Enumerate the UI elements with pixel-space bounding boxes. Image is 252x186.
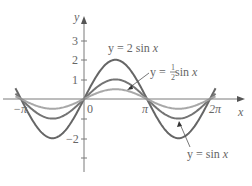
x-tick-label-2pi: 2π xyxy=(209,102,222,116)
y-axis-arrow-icon xyxy=(81,16,87,24)
svg-text:y =: y = xyxy=(150,65,166,79)
sine-amplitude-chart: y x 3 2 1 −2 0 −π π 2π y = 2 sin x y = 1… xyxy=(0,0,252,186)
y-tick-label-2: 2 xyxy=(72,53,78,67)
annotation-2sinx: y = 2 sin x xyxy=(108,41,159,55)
x-axis-arrow-icon xyxy=(237,96,245,102)
x-tick-label-pi: π xyxy=(142,102,149,116)
annotation-sinx-leader xyxy=(180,124,190,147)
y-tick-label-1: 1 xyxy=(72,73,78,87)
x-tick-label-neg-pi: −π xyxy=(13,102,28,116)
y-tick-label-3: 3 xyxy=(72,34,78,48)
y-axis-label: y xyxy=(73,10,80,24)
y-tick-label-neg2: −2 xyxy=(66,132,79,146)
annotation-half-arrow-icon xyxy=(127,85,133,90)
annotation-sinx-arrow-icon xyxy=(177,121,182,127)
x-tick-label-origin: 0 xyxy=(87,102,93,116)
svg-text:sin x: sin x xyxy=(175,65,198,79)
annotation-half-sinx: y = 1 2 sin x xyxy=(150,63,198,82)
annotation-sinx: y = sin x xyxy=(187,147,229,161)
x-axis-label: x xyxy=(237,105,244,119)
